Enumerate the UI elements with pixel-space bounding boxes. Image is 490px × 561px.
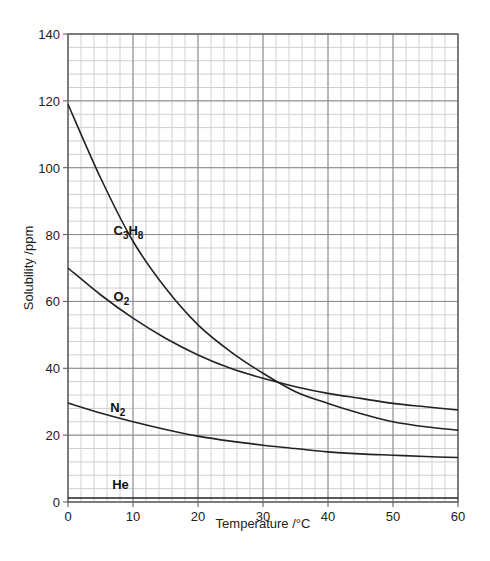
x-tick-label: 40 bbox=[321, 509, 335, 524]
subscript: 2 bbox=[124, 296, 130, 307]
label-text: He bbox=[112, 477, 129, 492]
x-tick-label: 50 bbox=[386, 509, 400, 524]
series-label-he: He bbox=[112, 477, 129, 492]
y-axis-label: Solubility /ppm bbox=[21, 226, 36, 311]
y-tick-label: 100 bbox=[38, 161, 60, 176]
series-label-c3h8: C3H8 bbox=[114, 223, 144, 241]
subscript: 2 bbox=[120, 407, 126, 418]
label-text: N bbox=[110, 400, 119, 415]
label-text: O bbox=[114, 289, 124, 304]
x-tick-label: 10 bbox=[126, 509, 140, 524]
x-axis-label: Temperature /°C bbox=[216, 516, 311, 531]
y-tick-label: 20 bbox=[46, 428, 60, 443]
major-gridlines bbox=[68, 34, 458, 502]
x-tick-label: 0 bbox=[64, 509, 71, 524]
y-tick-label: 0 bbox=[53, 495, 60, 510]
series-label-o2: O2 bbox=[114, 289, 130, 307]
y-tick-label: 80 bbox=[46, 228, 60, 243]
series-label-n2: N2 bbox=[110, 400, 125, 418]
series-labels: C3H8O2N2He bbox=[110, 223, 144, 492]
y-tick-labels: 020406080100120140 bbox=[38, 27, 68, 510]
y-tick-label: 40 bbox=[46, 361, 60, 376]
y-tick-label: 120 bbox=[38, 94, 60, 109]
y-tick-label: 60 bbox=[46, 294, 60, 309]
label-text: H bbox=[128, 223, 137, 238]
solubility-chart: 0102030405060 020406080100120140 C3H8O2N… bbox=[0, 0, 490, 561]
subscript: 8 bbox=[138, 230, 144, 241]
x-tick-label: 20 bbox=[191, 509, 205, 524]
y-tick-label: 140 bbox=[38, 27, 60, 42]
x-tick-label: 60 bbox=[451, 509, 465, 524]
